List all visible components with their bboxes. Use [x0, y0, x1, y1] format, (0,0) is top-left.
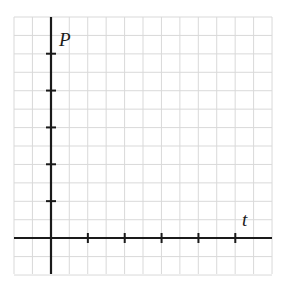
- x-axis-label: t: [242, 209, 248, 230]
- y-axis-label: P: [58, 29, 71, 50]
- coordinate-plane: P t: [0, 0, 287, 290]
- grid-lines: [14, 17, 272, 275]
